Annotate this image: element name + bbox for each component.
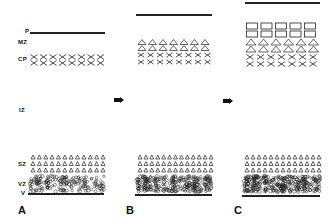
cell-layers (0, 0, 335, 221)
